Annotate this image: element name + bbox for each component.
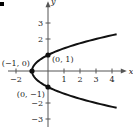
y-tick-label: −2 [31, 99, 43, 108]
parabola-graph: xy −2123432−2−3 (−1, 0)(0, 1)(0, −1) [0, 0, 133, 128]
y-tick-label: 2 [38, 35, 43, 44]
y-axis-label: y [50, 0, 56, 6]
x-axis-arrow-icon [121, 69, 127, 74]
x-tick-label: 4 [109, 75, 114, 84]
x-tick-label: 3 [93, 75, 98, 84]
point-marker [29, 68, 34, 73]
point-label: (0, 1) [52, 55, 74, 64]
point-label: (−1, 0) [2, 59, 30, 68]
point-label: (0, −1) [17, 90, 45, 99]
y-axis-arrow-icon [46, 1, 51, 7]
point-marker [45, 84, 50, 89]
x-axis-label: x [129, 67, 133, 76]
y-tick-label: 3 [38, 19, 43, 28]
y-tick-label: −3 [31, 115, 43, 124]
x-tick-label: 1 [61, 75, 66, 84]
point-marker [45, 52, 50, 57]
x-tick-label: 2 [77, 75, 82, 84]
x-tick-label: −2 [10, 75, 22, 84]
